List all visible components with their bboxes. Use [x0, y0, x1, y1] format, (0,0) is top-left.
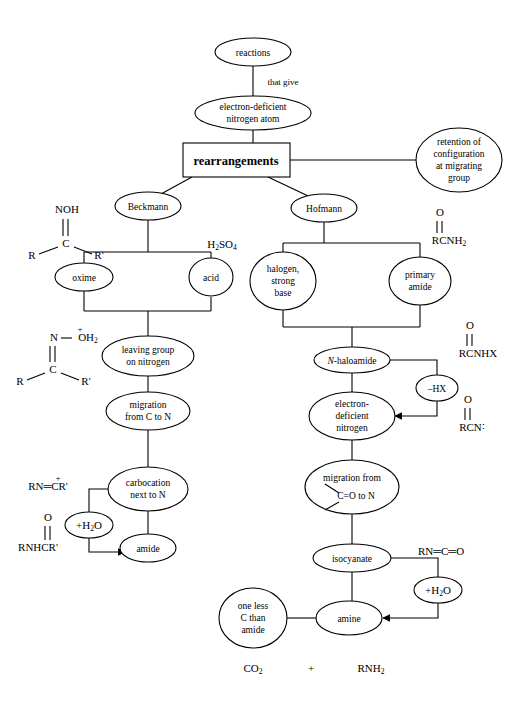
formula-acyl-nitrene-structure: O RCN∶: [459, 393, 485, 433]
formula-primary-amide-structure: O RCNH2: [432, 206, 467, 248]
node-halogen-line2: strong: [271, 276, 295, 286]
edge-h2o-amide: [89, 538, 125, 552]
node-migration-from-c-to-n[interactable]: migration from C to N: [106, 392, 190, 430]
node-electron-deficient-nitrogen[interactable]: electron- deficient nitrogen: [309, 392, 395, 440]
node-halogen-strong-base[interactable]: halogen, strong base: [250, 252, 316, 310]
node-acid-label: acid: [203, 273, 219, 283]
formula-products: CO2 + RNH2: [243, 662, 384, 676]
node-amine[interactable]: amine: [316, 601, 382, 635]
edge-h2o-amine: [383, 602, 438, 618]
edge-isocyanate-h2o: [391, 558, 438, 577]
node-plus-h2o-right[interactable]: +H2O: [414, 577, 462, 603]
node-retention-line2: configuration: [433, 149, 484, 159]
node-beckmann[interactable]: Beckmann: [115, 192, 181, 220]
edge-label-that-give: that give: [267, 77, 298, 87]
node-leaving-group-line1: leaving group: [122, 345, 175, 355]
node-one-less-line3: amide: [241, 625, 264, 635]
node-migration-co-line2: C=O to N: [337, 491, 375, 501]
node-one-less-line2: C than: [240, 613, 265, 623]
formula-plus: +: [308, 662, 314, 674]
formula-amide-structure: O RNHCR': [18, 511, 58, 553]
formula-nitrilium-charge: +: [55, 473, 60, 483]
formula-oxime-c: C: [62, 237, 69, 249]
formula-oxime-rprime: R': [94, 249, 103, 261]
node-plus-h2o-left-label: +H2O: [76, 519, 102, 533]
protonated-bond-rprime: [61, 373, 79, 380]
formula-primary-amide-o: O: [436, 206, 444, 218]
protonated-bond-r: [27, 373, 45, 380]
node-oxime-label: oxime: [72, 273, 96, 283]
node-minus-hx[interactable]: –HX: [416, 375, 458, 401]
node-leaving-group-on-nitrogen[interactable]: leaving group on nitrogen: [102, 336, 194, 376]
formula-co2: CO2: [243, 662, 262, 676]
formula-amide-body: RNHCR': [18, 541, 58, 553]
node-hofmann-label: Hofmann: [306, 204, 342, 214]
node-reactions[interactable]: reactions: [215, 38, 291, 66]
formula-nitrene-o: O: [464, 393, 472, 405]
node-edn-line1: electron-: [335, 399, 369, 409]
node-retention-line4: group: [448, 173, 470, 183]
node-carbocation-line1: carbocation: [126, 478, 171, 488]
node-edn-line2: deficient: [335, 411, 369, 421]
formula-primary-amide-body: RCNH2: [432, 234, 467, 248]
node-halogen-line3: base: [275, 288, 292, 298]
oxime-bond-rprime: [74, 247, 92, 254]
formula-n-haloamide-structure: O RCNHX: [459, 319, 498, 359]
formula-amide-o: O: [44, 511, 52, 523]
formula-nitrilium: RN═CR': [28, 480, 68, 492]
formula-protonated-charge: +: [77, 324, 82, 334]
node-leaving-group-line2: on nitrogen: [126, 357, 170, 367]
node-edn-line3: nitrogen: [336, 423, 368, 433]
formula-haloamide-o: O: [466, 319, 474, 331]
node-amide-label: amide: [136, 544, 159, 554]
node-migration-cn-line1: migration: [130, 400, 167, 410]
formula-rnh2: RNH2: [358, 662, 385, 676]
formula-protonated-n: N: [50, 331, 58, 343]
node-migration-co-line1: migration from: [323, 473, 381, 483]
node-reactions-label: reactions: [236, 48, 271, 58]
formula-haloamide-body: RCNHX: [459, 347, 498, 359]
node-n-haloamide[interactable]: N-haloamide: [314, 347, 390, 373]
node-isocyanate[interactable]: isocyanate: [313, 544, 391, 572]
node-amide[interactable]: amide: [120, 534, 176, 562]
node-minus-hx-label: –HX: [427, 384, 447, 394]
node-carbocation-line2: next to N: [130, 490, 165, 500]
node-primary-amide[interactable]: primary amide: [389, 257, 451, 305]
node-n-haloamide-label: N-haloamide: [326, 356, 376, 366]
node-retention-of-configuration[interactable]: retention of configuration at migrating …: [416, 128, 502, 192]
formula-nitrene-body: RCN∶: [459, 421, 485, 433]
node-isocyanate-label: isocyanate: [332, 554, 372, 564]
node-migration-cn-line2: from C to N: [125, 412, 171, 422]
formula-nitrilium-ion: RN═CR' +: [28, 473, 68, 492]
node-retention-line1: retention of: [437, 137, 482, 147]
node-amine-label: amine: [337, 614, 360, 624]
formula-protonated-r: R: [16, 375, 24, 387]
concept-map: reactions that give electron-deficient n…: [0, 0, 519, 704]
node-carbocation-next-to-n[interactable]: carbocation next to N: [108, 467, 188, 511]
node-primary-amide-line2: amide: [408, 282, 431, 292]
node-edn-atom-line1: electron-deficient: [220, 102, 287, 112]
node-oxime[interactable]: oxime: [55, 263, 113, 291]
node-hofmann[interactable]: Hofmann: [291, 194, 357, 222]
formula-oxime-r: R: [28, 249, 36, 261]
formula-oxime-noh: NOH: [55, 203, 79, 215]
node-beckmann-label: Beckmann: [128, 202, 169, 212]
node-plus-h2o-right-label: +H2O: [425, 584, 451, 598]
edge-hx-edn: [395, 400, 437, 416]
node-migration-from-co-to-n[interactable]: migration from C=O to N: [305, 460, 399, 514]
node-plus-h2o-left[interactable]: +H2O: [65, 512, 113, 538]
node-halogen-line1: halogen,: [267, 264, 299, 274]
node-one-less-c-than-amide[interactable]: one less C than amide: [219, 588, 287, 648]
formula-protonated-oxime: N OH2 + C R R': [16, 324, 98, 387]
node-one-less-line1: one less: [238, 601, 269, 611]
node-retention-line3: at migrating: [436, 161, 482, 171]
node-rearrangements-label: rearrangements: [193, 154, 278, 168]
node-rearrangements[interactable]: rearrangements: [183, 143, 290, 177]
node-electron-deficient-nitrogen-atom[interactable]: electron-deficient nitrogen atom: [195, 96, 311, 130]
node-primary-amide-line1: primary: [405, 270, 435, 280]
node-acid[interactable]: acid: [189, 258, 233, 296]
edge-label-h2so4: H2SO4: [207, 238, 237, 252]
node-edn-atom-line2: nitrogen atom: [226, 114, 280, 124]
formula-protonated-rprime: R': [81, 375, 90, 387]
edge-nhaloamide-hx: [390, 360, 437, 375]
